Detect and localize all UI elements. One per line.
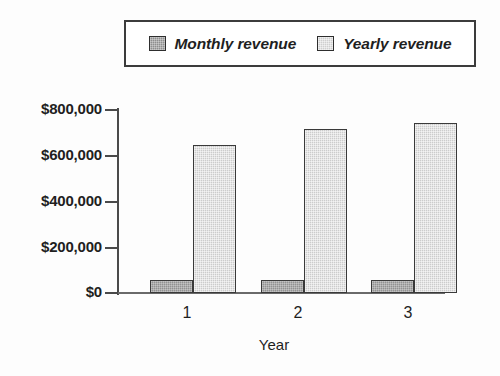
- chart-figure: Monthly revenue Yearly revenue $800,000 …: [0, 0, 500, 376]
- y-tick-mark-400000: [105, 201, 118, 203]
- y-tick-mark-200000: [105, 247, 118, 249]
- bar-monthly-year-1: [150, 280, 193, 293]
- bar-monthly-year-3: [371, 280, 414, 293]
- bar-monthly-year-2: [261, 280, 304, 293]
- y-tick-mark-800000: [105, 109, 118, 111]
- bar-yearly-year-2: [304, 129, 347, 293]
- bar-yearly-year-1: [193, 145, 236, 293]
- bar-yearly-year-3: [414, 123, 457, 293]
- x-tick-label-3: 3: [378, 304, 438, 322]
- y-tick-label-0: $0: [2, 283, 102, 300]
- y-tick-label-200000: $200,000: [2, 238, 102, 255]
- y-tick-label-400000: $400,000: [2, 192, 102, 209]
- x-axis-title-text: Year: [259, 336, 289, 353]
- y-tick-mark-0: [105, 292, 118, 294]
- y-tick-label-800000: $800,000: [2, 100, 102, 117]
- y-tick-label-600000: $600,000: [2, 146, 102, 163]
- x-tick-label-1: 1: [157, 304, 217, 322]
- y-axis-labels: $800,000 $600,000 $400,000 $200,000 $0: [0, 0, 102, 376]
- x-tick-label-2: 2: [268, 304, 328, 322]
- y-tick-mark-600000: [105, 155, 118, 157]
- x-axis-title: Year: [0, 336, 500, 353]
- plot-area: $800,000 $600,000 $400,000 $200,000 $0 1…: [0, 0, 500, 376]
